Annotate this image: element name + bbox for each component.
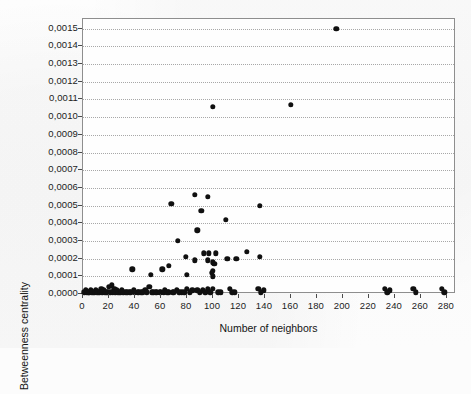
x-axis-tick-label: 220 — [360, 300, 376, 311]
x-axis-tick-mark — [394, 294, 395, 298]
x-axis-tick-mark — [160, 294, 161, 298]
x-axis-tick-label: 140 — [256, 300, 272, 311]
y-axis-tick-label: 0,0011 — [36, 92, 78, 103]
x-axis-tick-mark — [290, 294, 291, 298]
gridline — [83, 117, 454, 118]
y-axis-tick-label: 0,0004 — [36, 216, 78, 227]
x-axis-tick-mark — [186, 294, 187, 298]
data-point — [218, 290, 223, 295]
x-axis-tick-mark — [134, 294, 135, 298]
data-point — [210, 274, 215, 279]
data-point — [130, 267, 135, 272]
data-point — [212, 261, 217, 266]
gridline — [83, 206, 454, 207]
data-point — [206, 251, 211, 256]
plot-area — [82, 18, 455, 293]
x-axis-tick-label: 60 — [155, 300, 166, 311]
x-axis-tick-label: 280 — [438, 300, 454, 311]
x-axis-tick-mark — [238, 294, 239, 298]
gridline — [83, 276, 454, 277]
x-axis-tick-label: 200 — [334, 300, 350, 311]
y-axis-tick-label: 0,0003 — [36, 234, 78, 245]
y-axis-tick-label: 0,0005 — [36, 199, 78, 210]
x-axis-tick-label: 40 — [129, 300, 140, 311]
data-point — [195, 228, 200, 233]
y-axis-tick-label: 0,0007 — [36, 163, 78, 174]
y-axis-tick-label: 0,0002 — [36, 252, 78, 263]
data-point — [234, 256, 239, 261]
x-axis-tick-mark — [342, 294, 343, 298]
gridline — [83, 99, 454, 100]
x-axis-tick-label: 20 — [103, 300, 114, 311]
x-axis-tick-mark — [368, 294, 369, 298]
y-axis-tick-label: 0,0014 — [36, 39, 78, 50]
y-axis-tick-label: 0,0009 — [36, 128, 78, 139]
data-point — [205, 194, 210, 199]
data-point — [213, 251, 218, 256]
x-axis-tick-mark — [446, 294, 447, 298]
data-point — [413, 290, 418, 295]
y-axis-tick-label: 0,0001 — [36, 269, 78, 280]
y-axis-tick-label: 0,0012 — [36, 75, 78, 86]
y-axis-tick-label: 0,0015 — [36, 22, 78, 33]
y-axis-tick-label: 0,0000 — [36, 287, 78, 298]
data-point — [258, 290, 263, 295]
x-axis-tick-mark — [420, 294, 421, 298]
gridline — [83, 46, 454, 47]
gridline — [83, 170, 454, 171]
x-axis-tick-label: 180 — [308, 300, 324, 311]
gridline — [83, 135, 454, 136]
gridline — [83, 241, 454, 242]
y-axis-tick-label: 0,0006 — [36, 181, 78, 192]
gridline — [83, 29, 454, 30]
data-point — [225, 256, 230, 261]
x-axis-tick-mark — [316, 294, 317, 298]
gridline — [83, 153, 454, 154]
data-point — [166, 263, 171, 268]
y-axis-tick-label: 0,0008 — [36, 146, 78, 157]
y-axis-tick-label: 0,0013 — [36, 57, 78, 68]
x-axis-tick-label: 240 — [386, 300, 402, 311]
gridline — [83, 64, 454, 65]
data-point — [223, 217, 228, 222]
gridline — [83, 188, 454, 189]
x-axis-tick-mark — [212, 294, 213, 298]
y-axis-tick-label: 0,0010 — [36, 110, 78, 121]
gridline — [83, 223, 454, 224]
data-point — [288, 102, 293, 107]
data-point — [244, 249, 249, 254]
x-axis-tick-label: 80 — [181, 300, 192, 311]
x-axis-tick-label: 160 — [282, 300, 298, 311]
x-axis-tick-label: 120 — [230, 300, 246, 311]
gridline — [83, 259, 454, 260]
data-point — [210, 104, 215, 109]
x-axis-label: Number of neighbors — [82, 322, 455, 334]
data-point — [187, 290, 192, 295]
data-point — [334, 26, 339, 31]
data-point — [192, 192, 197, 197]
x-axis-tick-mark — [82, 294, 83, 298]
data-point — [257, 203, 262, 208]
x-axis-tick-mark — [108, 294, 109, 298]
x-axis-tick-label: 0 — [79, 300, 84, 311]
x-axis-tick-label: 260 — [412, 300, 428, 311]
data-point — [160, 267, 165, 272]
data-point — [199, 208, 204, 213]
data-point — [175, 238, 180, 243]
data-point — [384, 290, 389, 295]
data-point — [192, 258, 197, 263]
x-axis-tick-mark — [264, 294, 265, 298]
y-axis-label: Betweenness centrality — [18, 246, 30, 394]
x-axis-tick-label: 100 — [204, 300, 220, 311]
gridline — [83, 82, 454, 83]
